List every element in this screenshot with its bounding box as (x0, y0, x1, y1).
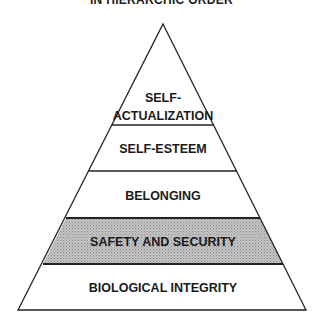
pyramid-outline (18, 24, 306, 310)
level-self-esteem: SELF-ESTEEM (119, 142, 207, 156)
level-self-actualization-line1: SELF- (145, 91, 181, 105)
pyramid-diagram: SELF- ACTUALIZATION SELF-ESTEEM BELONGIN… (0, 0, 323, 331)
level-self-actualization-line2: ACTUALIZATION (113, 109, 213, 123)
level-safety-and-security: SAFETY AND SECURITY (90, 235, 237, 249)
level-belonging: BELONGING (125, 189, 201, 203)
level-biological-integrity: BIOLOGICAL INTEGRITY (89, 281, 238, 295)
